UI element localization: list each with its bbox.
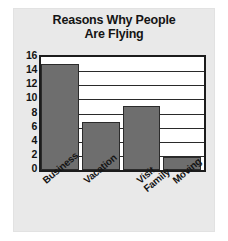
y-axis-tick-label: 10 [14,92,37,102]
y-axis-tick-label: 4 [14,135,37,145]
y-axis-tick-label: 0 [14,163,37,173]
y-axis-tick-label: 2 [14,149,37,159]
bar-series [41,57,204,170]
chart-title-line-1: Reasons Why People [53,13,176,27]
x-axis: BusinessVacationVisitFamilyMoving [39,172,206,234]
y-axis-tick-label: 12 [14,78,37,88]
y-axis-tick-label: 8 [14,107,37,117]
y-axis: 0246810121416 [14,55,37,172]
chart-figure: Reasons Why People Are Flying 0246810121… [0,0,228,241]
chart-title-line-2: Are Flying [13,27,215,41]
chart-title: Reasons Why People Are Flying [13,13,215,41]
y-axis-tick-label: 16 [14,50,37,60]
y-axis-tick-label: 14 [14,64,37,74]
plot-area [39,55,206,172]
y-axis-tick-label: 6 [14,121,37,131]
